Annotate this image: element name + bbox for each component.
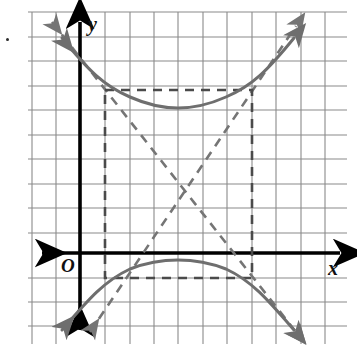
grid-lines <box>28 12 347 344</box>
coordinate-graph-svg <box>0 0 357 353</box>
x-axis-label: x <box>328 258 338 278</box>
origin-label: O <box>61 256 75 275</box>
y-axis-label: y <box>88 14 97 34</box>
graph-figure: x y O <box>0 0 357 353</box>
